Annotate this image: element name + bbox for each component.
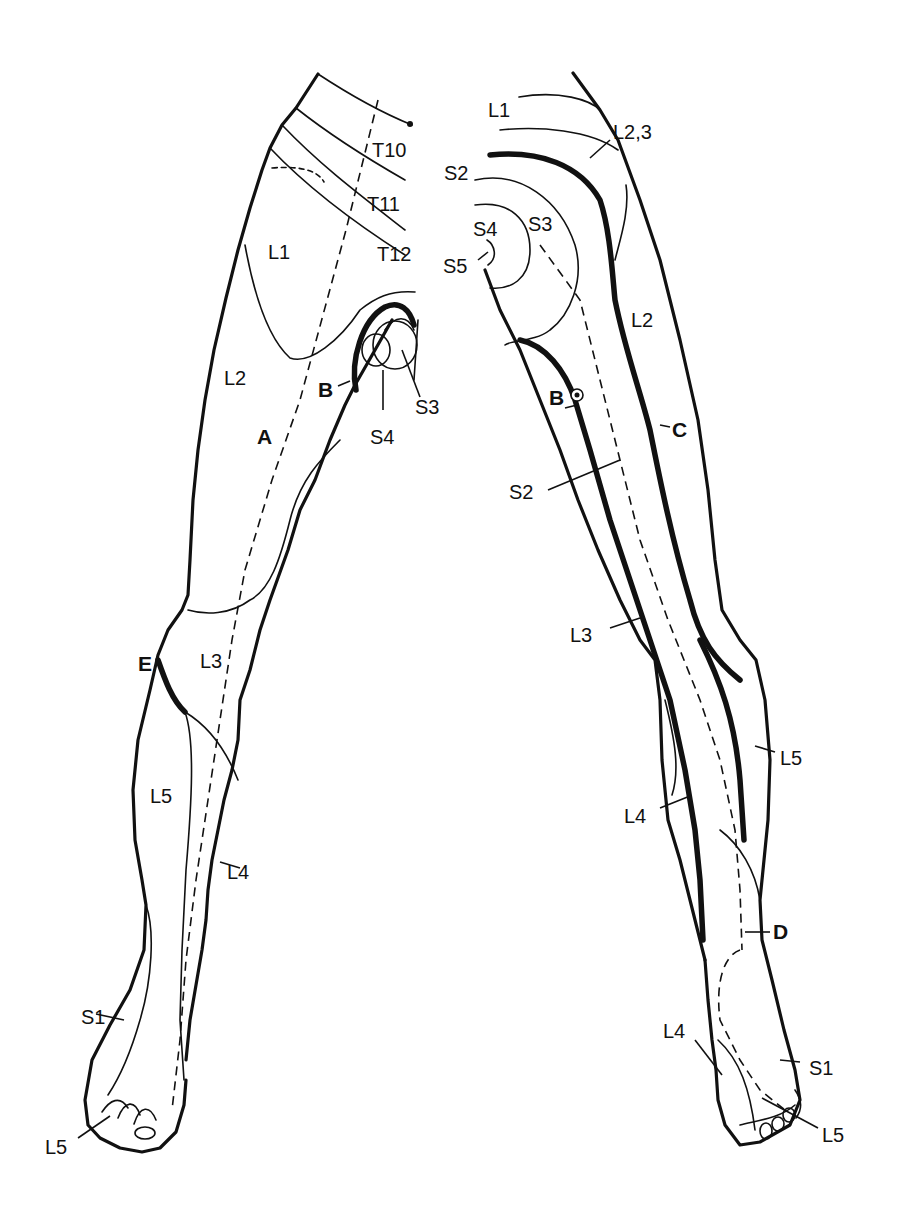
label-S4-anterior: S4	[370, 427, 394, 447]
posterior-medial-outline	[485, 270, 705, 960]
anterior-medial-outline	[186, 320, 392, 1060]
posterior-leg	[475, 73, 818, 1145]
anterior-leg	[78, 74, 420, 1152]
label-L5-anterior: L5	[150, 786, 172, 806]
label-L1-posterior: L1	[488, 100, 510, 120]
label-L2-3-posterior: L2,3	[613, 122, 652, 142]
marker-B-posterior: B	[549, 387, 564, 408]
label-S3-anterior: S3	[415, 397, 439, 417]
label-T11: T11	[367, 194, 400, 214]
label-L4-anterior: L4	[227, 862, 249, 882]
label-S1-posterior: S1	[809, 1058, 833, 1078]
marker-B-anterior: B	[318, 379, 333, 400]
marker-E: E	[138, 653, 152, 674]
label-L3-anterior: L3	[200, 651, 222, 671]
marker-D: D	[773, 921, 788, 942]
label-L3-posterior: L3	[570, 625, 592, 645]
label-L2-anterior: L2	[224, 368, 246, 388]
label-L4-foot-posterior: L4	[663, 1021, 685, 1041]
marker-C: C	[672, 419, 687, 440]
label-T12: T12	[377, 244, 411, 264]
label-L5-toe-anterior: L5	[45, 1137, 67, 1157]
label-L4-posterior: L4	[624, 806, 646, 826]
label-L5-foot-posterior: L5	[822, 1125, 844, 1145]
label-S1-anterior: S1	[81, 1007, 105, 1027]
label-S4-posterior: S4	[473, 219, 497, 239]
marker-A: A	[257, 426, 272, 447]
label-L1-anterior: L1	[268, 242, 290, 262]
label-T10: T10	[372, 140, 406, 160]
label-S2-posterior: S2	[444, 163, 468, 183]
label-L2-posterior: L2	[631, 310, 653, 330]
label-S2-lower-posterior: S2	[509, 482, 533, 502]
label-S3-posterior: S3	[528, 214, 552, 234]
label-S5-posterior: S5	[443, 256, 467, 276]
label-L5-posterior: L5	[780, 748, 802, 768]
